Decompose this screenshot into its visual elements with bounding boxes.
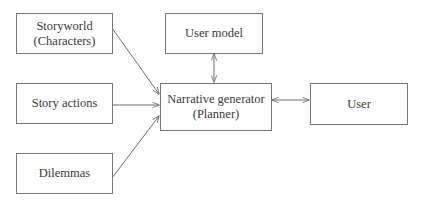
node-label: User model: [185, 26, 243, 41]
node-label: Dilemmas: [39, 166, 90, 181]
arrow-storyworld-to-generator: [112, 28, 159, 94]
node-narrative-generator: Narrative generator (Planner): [160, 83, 272, 131]
node-label: (Planner): [193, 107, 240, 122]
node-label: (Characters): [34, 34, 96, 49]
node-user-model: User model: [165, 13, 263, 54]
node-label: Narrative generator: [167, 92, 265, 107]
node-story-actions: Story actions: [16, 83, 113, 124]
arrow-dilemmas-to-generator: [112, 116, 159, 178]
node-dilemmas: Dilemmas: [16, 153, 113, 194]
node-user: User: [310, 83, 408, 125]
node-label: Story actions: [32, 96, 98, 111]
node-storyworld: Storyworld (Characters): [16, 13, 113, 54]
node-label: Storyworld: [36, 19, 92, 34]
node-label: User: [347, 97, 371, 112]
